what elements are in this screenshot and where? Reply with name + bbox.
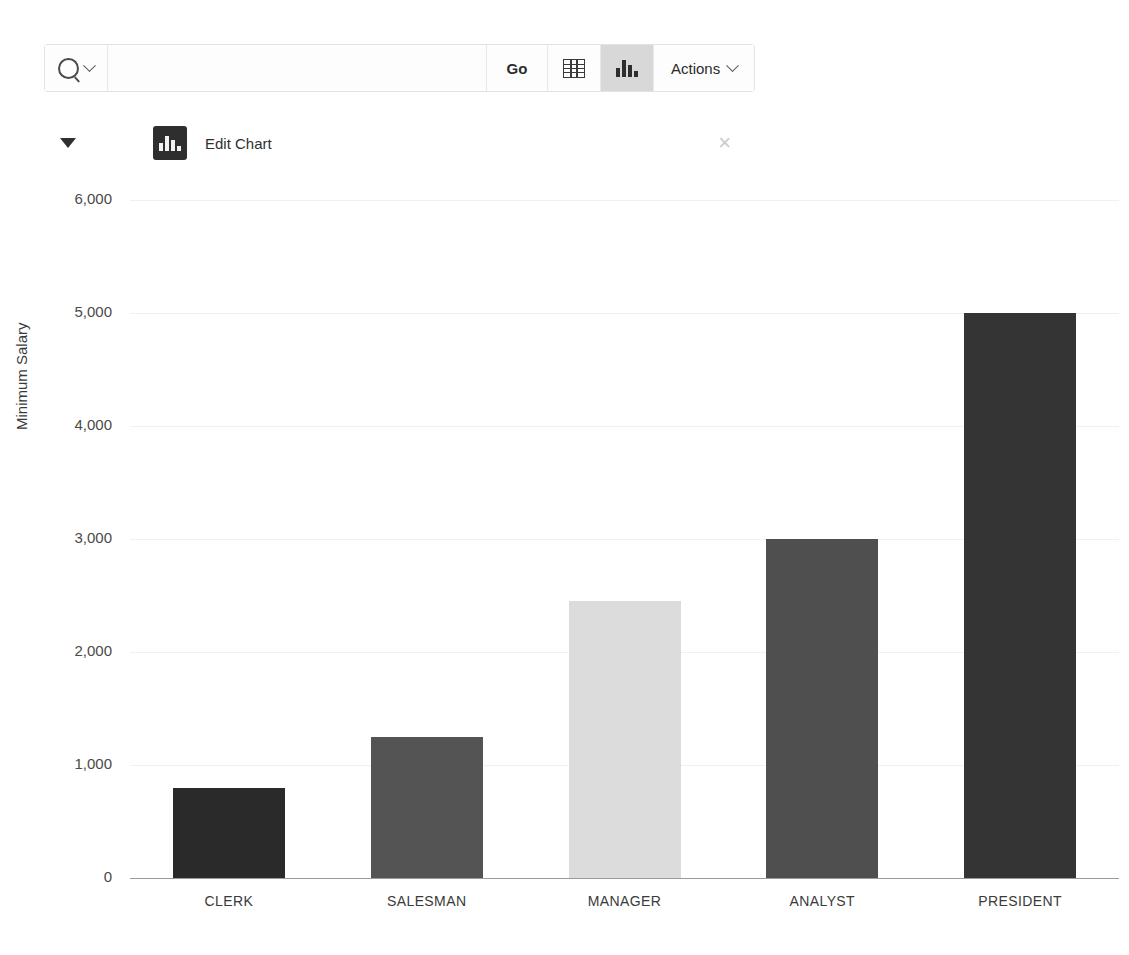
close-icon[interactable]: × bbox=[718, 132, 731, 154]
table-view-icon bbox=[563, 59, 585, 78]
bar-analyst[interactable] bbox=[766, 539, 878, 878]
search-input-wrapper[interactable] bbox=[108, 45, 487, 91]
search-toolbar: Go Actions bbox=[44, 44, 755, 92]
bar-clerk[interactable] bbox=[173, 788, 285, 878]
x-axis-tick-label: MANAGER bbox=[526, 893, 724, 909]
bar-manager[interactable] bbox=[569, 601, 681, 878]
chart-icon[interactable] bbox=[153, 126, 187, 160]
gridline bbox=[130, 426, 1119, 427]
chart-icon-glyph bbox=[159, 136, 181, 151]
table-view-button[interactable] bbox=[548, 45, 601, 91]
x-axis-tick-label: CLERK bbox=[130, 893, 328, 909]
gridline bbox=[130, 765, 1119, 766]
edit-chart-bar: Edit Chart × bbox=[50, 118, 1079, 168]
edit-chart-link[interactable]: Edit Chart bbox=[205, 135, 272, 152]
bar-president[interactable] bbox=[964, 313, 1076, 878]
triangle-down-icon[interactable] bbox=[60, 138, 76, 148]
y-axis-tick-label: 5,000 bbox=[22, 303, 112, 320]
y-axis-title: Minimum Salary bbox=[13, 322, 30, 430]
search-dropdown-button[interactable] bbox=[45, 45, 108, 91]
gridline bbox=[130, 652, 1119, 653]
gridline bbox=[130, 313, 1119, 314]
x-axis-line bbox=[130, 878, 1119, 879]
y-axis-tick-label: 2,000 bbox=[22, 642, 112, 659]
y-axis-tick-label: 0 bbox=[22, 868, 112, 885]
gridline bbox=[130, 200, 1119, 201]
gridline bbox=[130, 539, 1119, 540]
x-axis-tick-label: ANALYST bbox=[723, 893, 921, 909]
chevron-down-icon bbox=[83, 59, 96, 72]
y-axis-tick-label: 4,000 bbox=[22, 416, 112, 433]
chevron-down-icon bbox=[726, 59, 739, 72]
chart-view-button[interactable] bbox=[601, 45, 654, 91]
chart-view-icon bbox=[616, 60, 638, 77]
actions-label: Actions bbox=[671, 60, 720, 77]
y-axis-tick-label: 1,000 bbox=[22, 755, 112, 772]
go-button[interactable]: Go bbox=[487, 45, 548, 91]
y-axis-tick-label: 6,000 bbox=[22, 190, 112, 207]
x-axis-tick-label: PRESIDENT bbox=[921, 893, 1119, 909]
actions-menu-button[interactable]: Actions bbox=[654, 45, 754, 91]
y-axis-tick-label: 3,000 bbox=[22, 529, 112, 546]
search-input[interactable] bbox=[118, 59, 476, 77]
bar-salesman[interactable] bbox=[371, 737, 483, 878]
x-axis-tick-label: SALESMAN bbox=[328, 893, 526, 909]
search-icon bbox=[58, 58, 79, 79]
